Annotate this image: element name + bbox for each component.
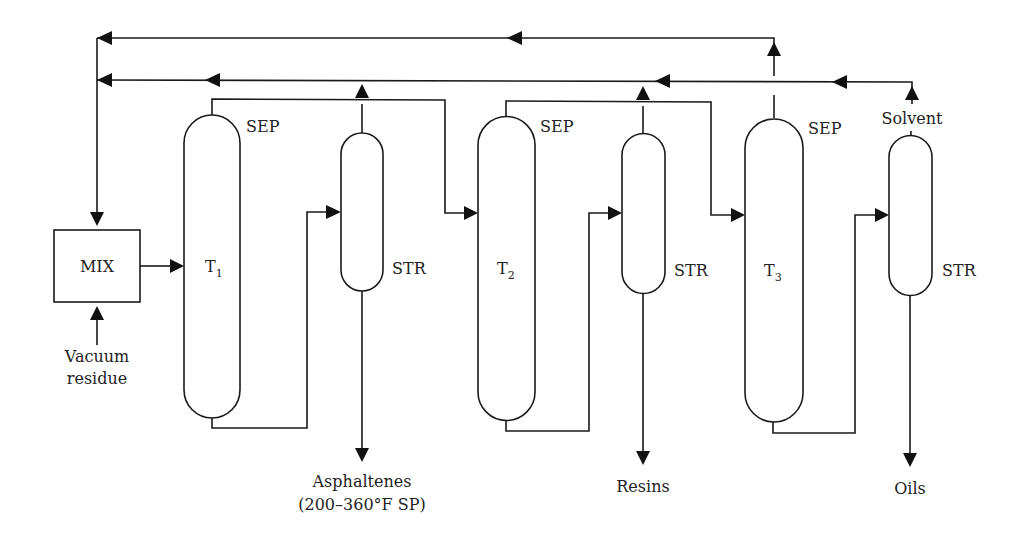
mixer-label: MIX [80, 257, 115, 276]
stripper-str3: STR Solvent Oils [882, 86, 977, 498]
tower-t1: T1 SEP [184, 115, 280, 418]
upper-recycle-line [97, 31, 781, 118]
oils-label: Oils [894, 479, 926, 498]
feed-stream: Vacuum residue [64, 306, 129, 388]
stripper-str1: STR Asphaltenes (200–360°F SP) [298, 84, 426, 514]
t1-sep-label: SEP [246, 117, 280, 136]
recycle-to-mix [90, 38, 104, 226]
stripper-str2: STR Resins [616, 86, 708, 496]
feed-label-line2: residue [67, 369, 127, 388]
str3-label: STR [942, 261, 977, 280]
t3-overhead-arrow-icon [767, 42, 781, 56]
str1-label: STR [392, 259, 427, 278]
tower-t3: T3 SEP [745, 119, 842, 422]
resins-label: Resins [616, 477, 669, 496]
solvent-label: Solvent [882, 109, 944, 128]
asphaltenes-label: Asphaltenes [312, 472, 412, 491]
feed-label-line1: Vacuum [64, 347, 129, 366]
mixer-unit: MIX [54, 230, 140, 302]
str2-label: STR [674, 261, 709, 280]
mix-to-t1 [140, 259, 184, 273]
asphaltenes-sp-label: (200–360°F SP) [298, 495, 425, 514]
lower-recycle-line [97, 73, 912, 89]
tower-t2: T2 SEP [478, 117, 574, 421]
process-flow-diagram: MIX Vacuum residue T1 SEP STR Asphaltene… [0, 0, 1024, 540]
t3-sep-label: SEP [808, 119, 842, 138]
t2-sep-label: SEP [540, 117, 574, 136]
